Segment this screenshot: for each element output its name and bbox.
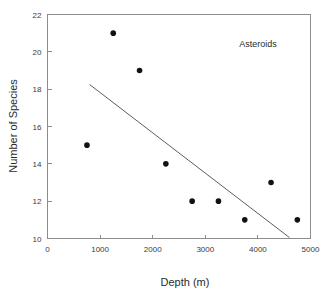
data-point-marker [137,68,143,74]
x-tick-label: 0 [45,245,50,254]
y-tick-label: 14 [33,160,42,169]
y-tick-label: 18 [33,85,42,94]
y-tick-label: 22 [33,11,42,20]
x-axis-title: Depth (m) [161,276,210,288]
y-tick-label: 10 [33,235,42,244]
data-point-marker [216,198,222,204]
data-point-marker [268,180,274,186]
data-point-marker [189,198,195,204]
data-point-marker [163,161,169,167]
data-point-marker [242,217,248,223]
x-tick-label: 3000 [196,245,214,254]
chart-figure: 10121416182022 010002000300040005000 Ast… [0,0,330,296]
y-tick-label: 12 [33,197,42,206]
data-points [84,30,300,222]
x-axis: 010002000300040005000 [45,235,320,254]
y-axis-title: Number of Species [7,79,19,173]
x-tick-label: 4000 [249,245,267,254]
series-annotation-label: Asteroids [239,39,277,49]
data-point-marker [110,30,116,36]
y-tick-label: 20 [33,48,42,57]
data-point-marker [84,142,90,148]
y-tick-label: 16 [33,123,42,132]
regression-line [90,85,290,238]
scatter-plot: 10121416182022 010002000300040005000 Ast… [0,0,330,296]
y-axis: 10121416182022 [33,11,52,244]
x-tick-label: 2000 [144,245,162,254]
data-point-marker [295,217,301,223]
x-tick-label: 1000 [91,245,109,254]
x-tick-label: 5000 [302,245,320,254]
